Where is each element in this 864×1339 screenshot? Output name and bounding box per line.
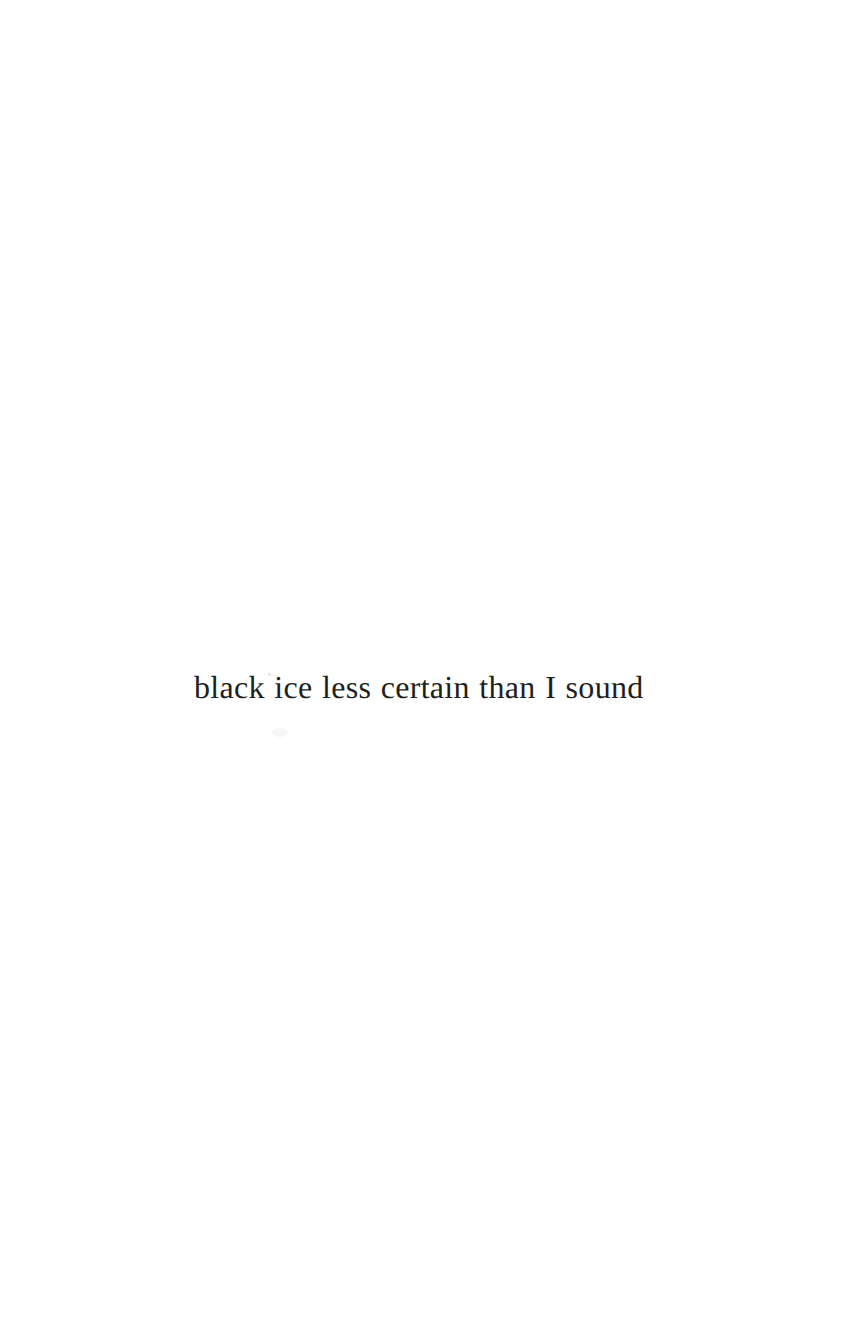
document-page: black ice less certain than I sound <box>0 0 864 1339</box>
scan-smudge-artifact <box>272 728 288 737</box>
poem-line: black ice less certain than I sound <box>194 668 664 706</box>
